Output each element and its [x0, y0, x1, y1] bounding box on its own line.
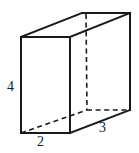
- dimension-label-depth: 3: [99, 121, 106, 135]
- prism-drawing: [0, 0, 139, 153]
- dimension-label-height: 4: [7, 80, 14, 94]
- dimension-label-width: 2: [37, 135, 44, 149]
- rectangular-prism-figure: 4 2 3: [0, 0, 139, 153]
